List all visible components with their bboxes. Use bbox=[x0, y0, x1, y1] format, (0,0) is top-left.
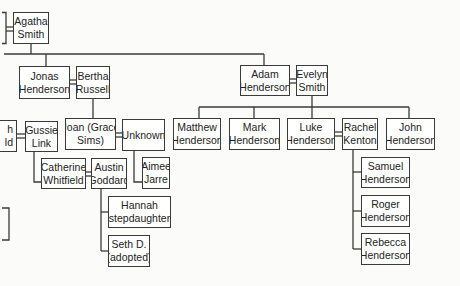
person-name: Catherine bbox=[41, 161, 86, 174]
person-rachel-kenton[interactable]: Rachel Kenton bbox=[342, 118, 378, 150]
person-name: Rachel bbox=[344, 121, 377, 134]
person-agatha-smith[interactable]: Agatha Smith bbox=[13, 12, 49, 44]
person-relation: (adopted) bbox=[108, 251, 150, 264]
person-name: Jonas bbox=[30, 70, 58, 83]
person-name: Hannah bbox=[121, 199, 158, 212]
person-austin-goddard[interactable]: Austin Goddard bbox=[91, 158, 127, 189]
person-unknown[interactable]: Unknown bbox=[122, 119, 165, 151]
person-name: Seth D. bbox=[111, 238, 146, 251]
person-surname: Henderson bbox=[361, 173, 410, 186]
person-surname: Sims) bbox=[77, 134, 104, 147]
person-name: Unknown bbox=[122, 129, 165, 142]
person-surname: Russell bbox=[76, 83, 110, 96]
person-name: Austin bbox=[94, 161, 123, 174]
person-bertha-russell[interactable]: Bertha Russell bbox=[76, 66, 110, 99]
person-surname: ld bbox=[5, 136, 13, 149]
person-matthew-henderson[interactable]: Matthew Henderson bbox=[173, 118, 221, 150]
person-evelyn-smith[interactable]: Evelyn Smith bbox=[296, 65, 328, 96]
person-relation: (stepdaughter) bbox=[108, 212, 171, 225]
person-roger-henderson[interactable]: Roger Henderson bbox=[361, 195, 410, 227]
person-name: Mark bbox=[243, 121, 266, 134]
person-surname: Kenton bbox=[343, 134, 376, 147]
person-name: Rebecca bbox=[365, 236, 406, 249]
person-name: Samuel bbox=[368, 160, 404, 173]
person-name: Luke bbox=[300, 121, 323, 134]
person-mark-henderson[interactable]: Mark Henderson bbox=[229, 118, 280, 150]
person-name: Evelyn bbox=[296, 68, 328, 81]
person-partial-offscreen[interactable]: h ld bbox=[0, 120, 17, 152]
person-surname: Henderson bbox=[173, 134, 221, 147]
person-joan-grace-sims[interactable]: Joan (Grace Sims) bbox=[65, 118, 116, 150]
family-tree-diagram: Agatha Smith Jonas Henderson Bertha Russ… bbox=[0, 0, 460, 286]
person-seth-d-adopted[interactable]: Seth D. (adopted) bbox=[108, 235, 150, 267]
person-name: Aimee bbox=[142, 160, 170, 173]
person-jonas-henderson[interactable]: Jonas Henderson bbox=[19, 66, 70, 99]
person-name: John bbox=[399, 121, 422, 134]
person-name: Joan (Grace bbox=[65, 121, 116, 134]
person-name: Matthew bbox=[177, 121, 217, 134]
person-name: Roger bbox=[371, 198, 400, 211]
person-surname: Jarre bbox=[144, 173, 168, 186]
person-name: Gussie bbox=[25, 124, 58, 137]
person-catherine-whitfield[interactable]: Catherine Whitfield bbox=[41, 158, 86, 189]
person-luke-henderson[interactable]: Luke Henderson bbox=[287, 118, 335, 150]
person-hannah-stepdaughter[interactable]: Hannah (stepdaughter) bbox=[108, 196, 171, 228]
person-samuel-henderson[interactable]: Samuel Henderson bbox=[361, 157, 410, 188]
person-surname: Henderson bbox=[361, 249, 410, 262]
person-surname: Link bbox=[32, 137, 51, 150]
person-surname: Whitfield bbox=[43, 174, 83, 187]
person-surname: Goddard bbox=[91, 174, 127, 187]
person-surname: Henderson bbox=[229, 134, 280, 147]
person-rebecca-henderson[interactable]: Rebecca Henderson bbox=[361, 233, 410, 265]
person-surname: Smith bbox=[299, 81, 326, 94]
person-name: Adam bbox=[251, 68, 278, 81]
person-surname: Henderson bbox=[361, 211, 410, 224]
person-surname: Henderson bbox=[240, 81, 290, 94]
person-surname: Henderson bbox=[19, 83, 70, 96]
person-gussie-link[interactable]: Gussie Link bbox=[25, 121, 58, 152]
person-aimee-jarre[interactable]: Aimee Jarre bbox=[142, 157, 170, 189]
person-surname: Henderson bbox=[386, 134, 435, 147]
person-name: h bbox=[7, 123, 13, 136]
person-adam-henderson[interactable]: Adam Henderson bbox=[240, 65, 290, 96]
person-surname: Henderson bbox=[287, 134, 335, 147]
person-surname: Smith bbox=[18, 28, 45, 41]
person-name: Agatha bbox=[14, 15, 47, 28]
person-name: Bertha bbox=[78, 70, 109, 83]
person-john-henderson[interactable]: John Henderson bbox=[386, 118, 435, 150]
